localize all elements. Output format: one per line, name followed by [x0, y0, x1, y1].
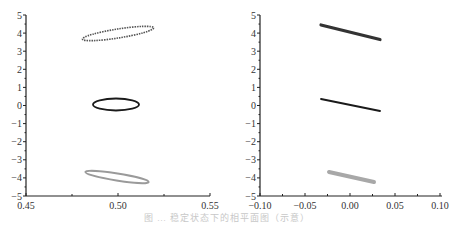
- y-tick-label: 1: [251, 82, 256, 93]
- x-tick-label: 0.05: [386, 200, 404, 211]
- x-tick-label: 0.00: [341, 200, 359, 211]
- y-tick-label: 5: [17, 10, 22, 21]
- y-tick-label: −2: [245, 136, 256, 147]
- y-tick-label: −1: [11, 118, 22, 129]
- y-tick-label: −3: [11, 154, 22, 165]
- bottom-ellipse: [85, 169, 149, 186]
- figure-caption: 图 … 稳定状态下的相平面图（示意）: [0, 211, 454, 224]
- y-tick-label: −1: [245, 118, 256, 129]
- y-tick-label: 3: [17, 46, 22, 57]
- y-tick-label: 2: [17, 64, 22, 75]
- left-panel: 543210−1−2−3−4−5 0.450.500.55: [11, 10, 218, 212]
- right-series: [321, 25, 380, 182]
- y-tick-label: 5: [251, 10, 256, 21]
- left-y-ticks: 543210−1−2−3−4−5: [11, 10, 26, 202]
- x-tick-label: −0.10: [248, 200, 271, 211]
- right-y-ticks: 543210−1−2−3−4−5: [245, 10, 260, 202]
- x-tick-label: 0.10: [431, 200, 449, 211]
- middle-line: [321, 99, 380, 111]
- figure: 543210−1−2−3−4−5 0.450.500.55 543210−1−2…: [0, 0, 454, 225]
- x-tick-label: 0.50: [109, 200, 127, 211]
- y-tick-label: 4: [251, 28, 256, 39]
- y-tick-label: 0: [17, 100, 22, 111]
- left-series: [82, 23, 155, 185]
- middle-ellipse: [93, 99, 139, 111]
- bottom-line: [329, 172, 374, 182]
- x-tick-label: 0.55: [201, 200, 219, 211]
- y-tick-label: 2: [251, 64, 256, 75]
- y-tick-label: 3: [251, 46, 256, 57]
- y-tick-label: 1: [17, 82, 22, 93]
- top-ellipse: [82, 23, 155, 43]
- y-tick-label: −2: [11, 136, 22, 147]
- right-panel: 543210−1−2−3−4−5 −0.10−0.050.000.050.10: [245, 10, 448, 212]
- y-tick-label: −4: [11, 172, 22, 183]
- x-tick-label: −0.05: [293, 200, 316, 211]
- y-tick-label: 0: [251, 100, 256, 111]
- y-tick-label: −3: [245, 154, 256, 165]
- top-line: [321, 25, 380, 40]
- x-tick-label: 0.45: [17, 200, 35, 211]
- y-tick-label: −4: [245, 172, 256, 183]
- y-tick-label: 4: [17, 28, 22, 39]
